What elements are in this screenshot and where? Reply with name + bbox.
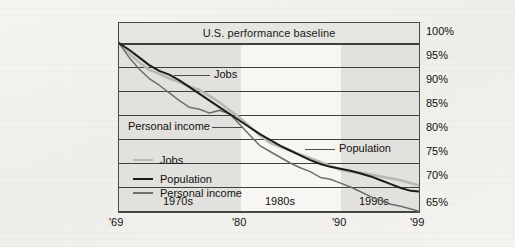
chart-figure: U.S. performance baseline Jobs Personal … <box>0 0 515 247</box>
legend-label-personal-income: Personal income <box>160 187 242 199</box>
legend-label-jobs: Jobs <box>160 154 183 166</box>
y-tick-80: 80% <box>426 121 448 133</box>
legend-item-personal-income: Personal income <box>133 187 242 199</box>
x-tick-69: '69 <box>109 216 123 228</box>
y-tick-100: 100% <box>426 25 454 37</box>
x-tick-99: '99 <box>410 216 424 228</box>
y-tick-65: 65% <box>426 196 448 208</box>
population-leader-line <box>305 149 335 150</box>
legend-swatch-personal-income <box>133 192 153 193</box>
annotation-personal-income: Personal income <box>128 120 210 132</box>
legend-swatch-jobs <box>133 159 153 161</box>
y-tick-85: 85% <box>426 97 448 109</box>
plot-area: U.S. performance baseline Jobs Personal … <box>118 22 420 213</box>
legend-swatch-population <box>133 178 153 181</box>
x-tick-90: '90 <box>332 216 346 228</box>
jobs-leader-line <box>174 75 210 76</box>
annotation-population: Population <box>339 142 391 154</box>
personal-income-leader-line <box>212 127 242 128</box>
figure-page: U.S. performance baseline Jobs Personal … <box>0 0 515 247</box>
y-tick-70: 70% <box>426 169 448 181</box>
y-tick-95: 95% <box>426 49 448 61</box>
legend-label-population: Population <box>160 173 212 185</box>
annotation-jobs: Jobs <box>214 68 237 80</box>
legend-item-jobs: Jobs <box>133 154 183 166</box>
legend-item-population: Population <box>133 173 212 185</box>
y-tick-75: 75% <box>426 145 448 157</box>
y-tick-90: 90% <box>426 73 448 85</box>
x-tick-80: '80 <box>232 216 246 228</box>
series-line-population <box>119 43 420 192</box>
